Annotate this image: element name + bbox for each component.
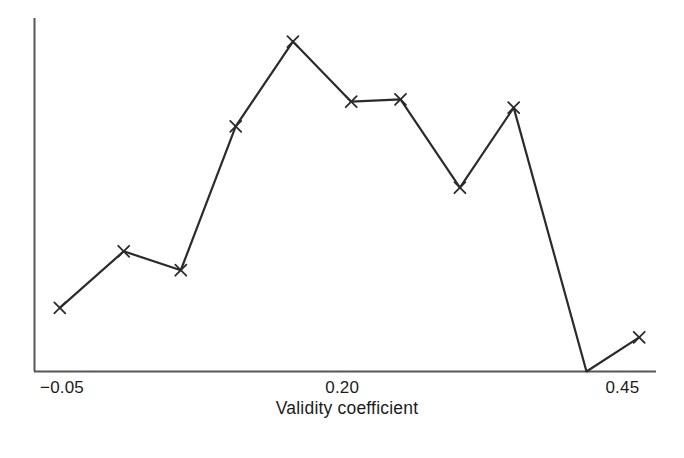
x-tick-label-1: 0.20 [302, 378, 382, 398]
series-line [60, 42, 639, 372]
x-axis-title: Validity coefficient [0, 398, 684, 419]
x-axis-title-text: Validity coefficient [276, 398, 418, 419]
data-point-marker [454, 182, 465, 193]
data-point-marker [175, 265, 186, 276]
data-point-marker [634, 332, 645, 343]
data-point-marker [54, 302, 65, 313]
x-tick-label-0: −0.05 [22, 378, 102, 398]
chart-axes [34, 18, 656, 372]
data-point-marker [230, 121, 241, 132]
chart-figure: −0.05 0.20 0.45 Validity coefficient [0, 0, 684, 458]
data-point-marker [287, 36, 298, 47]
series-markers [54, 36, 644, 343]
data-series-frequency [54, 36, 644, 371]
data-point-marker [118, 246, 129, 257]
x-tick-label-2: 0.45 [582, 378, 662, 398]
